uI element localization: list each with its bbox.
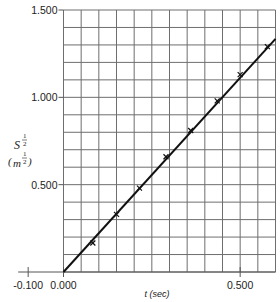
ticks: -0.1000.0000.5000.5001.0001.500 [13,4,253,291]
chart: -0.1000.0000.5000.5001.0001.500 t (sec) … [0,0,280,302]
x-tick-label: -0.100 [13,279,43,291]
y-axis-title-base: S [14,138,20,152]
y-axis-unit-exp-num: 1 [23,150,27,158]
axis-labels: t (sec) S 1 2 ( m 1 2 ) [8,132,170,299]
y-axis-unit-exp-den: 2 [23,158,27,166]
y-axis-title-exp-num: 1 [23,132,27,140]
y-axis-unit-base: m [13,157,21,169]
y-axis-title: S 1 2 ( m 1 2 ) [8,132,32,169]
y-axis-title-exp-den: 2 [23,140,27,148]
y-tick-label: 1.500 [31,4,57,16]
y-axis-unit-close-paren: ) [27,155,32,168]
grid [64,10,276,272]
x-axis-title: t (sec) [144,289,169,299]
x-tick-label: 0.000 [50,279,76,291]
x-tick-label: 0.500 [227,279,253,291]
y-tick-label: 0.500 [31,179,57,191]
y-tick-label: 1.000 [31,91,57,103]
